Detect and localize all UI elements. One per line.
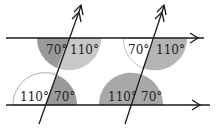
top-left-obtuse-label: 110°	[70, 43, 99, 57]
top-right-obtuse-label: 110°	[156, 43, 185, 57]
bottom-left-obtuse-label: 110°	[20, 90, 49, 104]
bottom-right-acute-label: 70°	[141, 90, 162, 104]
parallel-lines-angle-diagram: 70° 110° 70° 110° 110° 70° 110° 70°	[0, 0, 218, 137]
bottom-right-obtuse-label: 110°	[108, 90, 137, 104]
bottom-left-acute-label: 70°	[54, 90, 75, 104]
top-right-acute-label: 70°	[128, 43, 149, 57]
top-left-acute-label: 70°	[46, 43, 67, 57]
